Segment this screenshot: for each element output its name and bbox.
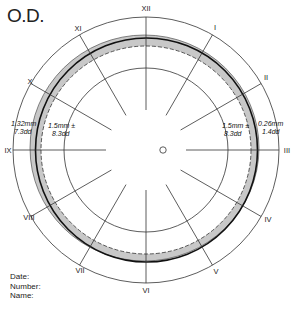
clock-labels: XII I II III IV V VI VII VIII IX X XI	[4, 4, 290, 295]
hour-spokes	[13, 17, 279, 283]
left-outer-mm: 1.32mm	[11, 120, 36, 127]
clock-label-xi: XI	[74, 24, 81, 33]
clock-label-ii: II	[264, 73, 268, 82]
measurement-labels: 1.32mm 7.3dd 1.5mm ± 8.3dd 1.5mm ± 8.3dd…	[11, 120, 283, 137]
clock-hour-diagram: XII I II III IV V VI VII VIII IX X XI 1.…	[0, 0, 295, 309]
clock-label-x: X	[27, 77, 32, 86]
left-inner-dd: 8.3dd	[52, 130, 71, 137]
clock-label-viii: VIII	[23, 213, 34, 222]
clock-label-iv: IV	[264, 215, 271, 224]
clock-label-iii: III	[284, 146, 290, 155]
name-label: Name:	[10, 291, 41, 301]
clock-label-vi: VI	[142, 286, 149, 295]
clock-label-i: I	[214, 23, 216, 32]
clock-label-ix: IX	[4, 146, 11, 155]
right-outer-mm: 0.26mm	[258, 120, 283, 127]
patient-info: Date: Number: Name:	[10, 272, 41, 301]
clock-label-xii: XII	[141, 4, 150, 13]
left-inner-mm: 1.5mm ±	[48, 122, 75, 129]
right-outer-dd: 1.4dd	[262, 128, 281, 135]
right-inner-dd: 8.3dd	[224, 130, 243, 137]
date-label: Date:	[10, 272, 41, 282]
clock-label-vii: VII	[75, 266, 84, 275]
left-outer-dd: 7.3dd	[14, 128, 33, 135]
clock-label-v: V	[213, 267, 218, 276]
number-label: Number:	[10, 282, 41, 292]
center-marker	[160, 147, 166, 153]
right-inner-mm: 1.5mm ±	[222, 122, 249, 129]
